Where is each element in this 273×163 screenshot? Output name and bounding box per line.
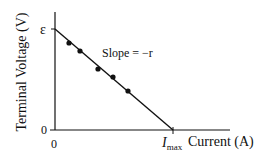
data-point	[95, 66, 100, 71]
y-axis-title: Terminal Voltage (V)	[14, 12, 30, 131]
data-point	[125, 88, 130, 93]
data-point	[77, 48, 82, 53]
data-point	[110, 74, 115, 79]
x-tick-imax-label: Imax	[161, 135, 183, 152]
chart: ε 0 0 Imax Current (A) Terminal Voltage …	[0, 0, 273, 163]
slope-annotation: Slope = −r	[102, 46, 153, 60]
data-point	[66, 40, 71, 45]
fit-line	[55, 29, 173, 130]
imax-sub: max	[167, 142, 183, 152]
x-axis-title: Current (A)	[188, 134, 254, 150]
y-tick-emf-label: ε	[40, 22, 46, 37]
x-tick-zero-label: 0	[51, 137, 57, 151]
y-tick-zero-label: 0	[41, 123, 47, 137]
